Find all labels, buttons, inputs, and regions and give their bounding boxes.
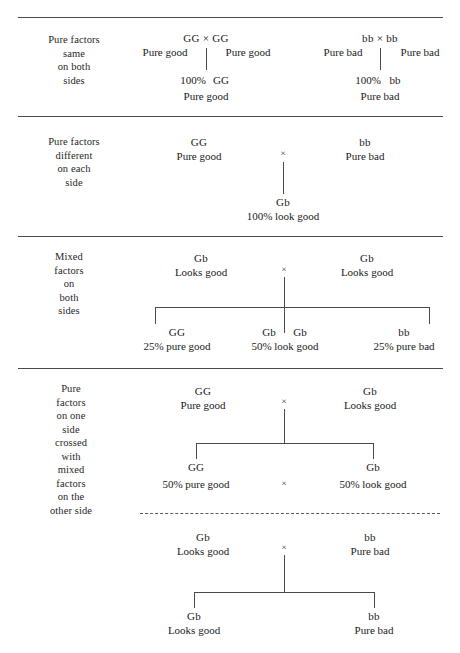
genetics-inheritance-diagram: Pure factors same on both sides GG × GG … [0,0,460,653]
parent-left-pheno-pure-good: Pure good [143,46,188,60]
offspring-node-gg: GG 25% pure good [143,326,210,353]
side-label-line: other side [12,504,130,518]
side-label-line: on the [12,490,130,504]
phenotype: Looks good [341,266,393,280]
genotype: Gb [177,531,229,545]
side-label-line: factors [12,396,130,410]
parent-node-gb-looks-good: Gb Looks good [344,385,396,412]
section-rule-3 [18,368,443,369]
genotype: GG [143,326,210,340]
offspring-geno-bb: bb [390,74,401,88]
cross-head-gg-gg: GG × GG [183,32,229,46]
cross-symbol-between-offspring: × [281,479,286,488]
parent-node-gg-pure-good: GG Pure good [181,385,226,412]
parent-node-gb-right: Gb Looks good [341,252,393,279]
offspring-node-gb-looks-good: Gb Looks good [168,610,220,637]
phenotype: Pure bad [355,624,394,638]
side-label-line: side [14,176,134,190]
offspring-branch-bar [194,592,374,593]
offspring-genotype-gb-a: Gb [262,326,275,340]
section-rule-top [18,17,443,18]
side-label-line: mixed [12,463,130,477]
side-label-line: Pure factors [14,135,134,149]
phenotype: Pure bad [346,150,385,164]
phenotype: Pure good [177,150,222,164]
genotype: Gb [247,196,320,210]
cross-stem-gb-gb [284,277,285,333]
phenotype: 25% pure good [143,340,210,354]
side-label-pure-different-each-side: Pure factors different on each side [14,135,134,189]
offspring-phenotype-50-look-good: 50% look good [339,478,406,492]
offspring-phenotype-look-good: 50% look good [251,340,318,354]
genotype: Gb [341,252,393,266]
cross-stem-gb-bb [284,555,285,592]
side-label-line: side [12,423,130,437]
side-label-line: Mixed [14,250,124,264]
parent-left-pheno-pure-bad: Pure bad [324,46,363,60]
phenotype: 100% look good [247,210,320,224]
offspring-drop-right [373,443,374,459]
side-label-line: on [14,277,124,291]
offspring-branch-bar [155,307,429,308]
side-label-pure-crossed-with-mixed: Pure factors on one side crossed with mi… [12,382,130,517]
genotype: GG [181,385,226,399]
cross-symbol: × [281,265,286,274]
phenotype: Looks good [175,266,227,280]
offspring-node-bb: bb 25% pure bad [373,326,434,353]
parent-node-gb-left: Gb Looks good [175,252,227,279]
side-label-mixed-both-sides: Mixed factors on both sides [14,250,124,318]
offspring-drop-left [194,592,195,608]
phenotype: Looks good [177,545,229,559]
genotype: Gb [168,610,220,624]
offspring-geno-gg: GG [213,74,229,88]
genotype: Gb [344,385,396,399]
offspring-node-gb: Gb 100% look good [247,196,320,223]
genotype: bb [351,531,390,545]
offspring-phenotype-50-pure-good: 50% pure good [162,478,229,492]
genotype: bb [355,610,394,624]
offspring-node-bb-pure-bad: bb Pure bad [355,610,394,637]
side-label-pure-same-both-sides: Pure factors same on both sides [14,33,134,87]
parent-node-gg: GG Pure good [177,136,222,163]
genotype: GG [177,136,222,150]
phenotype: 25% pure bad [373,340,434,354]
offspring-drop-left [155,307,156,324]
offspring-percent-gg: 100% [180,74,206,88]
side-label-line: sides [14,74,134,88]
side-label-line: factors [12,477,130,491]
parent-node-bb-pure-bad: bb Pure bad [351,531,390,558]
cross-stem-gg-bb [283,162,284,194]
offspring-pheno-pure-bad: Pure bad [361,90,400,104]
phenotype: Pure good [181,399,226,413]
cross-stem-gg-gb [284,409,285,443]
cross-symbol: × [281,543,286,552]
side-label-line: same [14,47,134,61]
side-label-line: crossed [12,436,130,450]
offspring-drop-right [429,307,430,324]
section-rule-1 [18,116,443,117]
offspring-drop-left [196,443,197,459]
offspring-genotype-gb: Gb [366,461,379,475]
offspring-percent-bb: 100% [355,74,381,88]
offspring-genotype-gb-b: Gb [293,326,306,340]
parent-node-bb: bb Pure bad [346,136,385,163]
phenotype: Looks good [344,399,396,413]
cross-symbol: × [281,397,286,406]
parent-right-pheno-pure-good: Pure good [226,46,271,60]
side-label-line: with [12,450,130,464]
phenotype: Looks good [168,624,220,638]
offspring-pheno-pure-good: Pure good [184,90,229,104]
side-label-line: Pure factors [14,33,134,47]
section-rule-2 [18,236,443,237]
offspring-drop-right [374,592,375,608]
genotype: Gb [175,252,227,266]
side-label-line: factors [14,264,124,278]
side-label-line: Pure [12,382,130,396]
parent-node-gb-looks-good-2: Gb Looks good [177,531,229,558]
dashed-divider [140,513,440,514]
side-label-line: sides [14,304,124,318]
side-label-line: on each [14,162,134,176]
cross-stem-bb-bb [380,48,381,70]
side-label-line: different [14,149,134,163]
genotype: bb [346,136,385,150]
